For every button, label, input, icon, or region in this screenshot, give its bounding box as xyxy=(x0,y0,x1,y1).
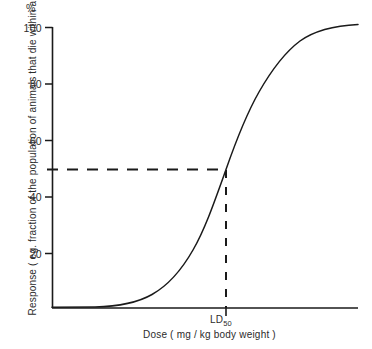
ld50-annotation-label: LD50 xyxy=(210,314,232,328)
x-axis-title: Dose ( mg / kg body weight ) xyxy=(143,329,276,340)
ld50-label-subscript: 50 xyxy=(223,319,232,328)
dose-response-curve xyxy=(52,25,358,308)
y-axis-title: Response ( eg. fraction of the populatio… xyxy=(27,16,38,316)
ld50-label-base: LD xyxy=(210,314,223,325)
dose-response-figure: % 100 80 60 40 20 LD50 Dose ( mg / kg bo… xyxy=(0,0,372,349)
chart-canvas xyxy=(0,0,372,349)
